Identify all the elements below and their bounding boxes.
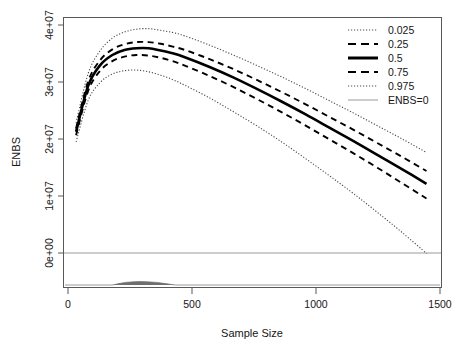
x-tick-label: 0 xyxy=(65,298,71,310)
y-tick-label: 0e+00 xyxy=(43,238,55,268)
rug-density-curve xyxy=(65,282,440,286)
y-tick-label: 2e+07 xyxy=(43,124,55,154)
quantile-curves xyxy=(76,29,426,254)
y-axis-title: ENBS xyxy=(10,137,22,167)
x-tick-label: 1500 xyxy=(428,298,452,310)
y-tick-label: 3e+07 xyxy=(43,67,55,97)
y-axis-tick-labels: 4e+07 3e+07 2e+07 1e+07 0e+00 xyxy=(43,10,55,268)
chart-canvas: 4e+07 3e+07 2e+07 1e+07 0e+00 ENBS 0 500… xyxy=(0,0,457,352)
y-axis-ticks xyxy=(58,25,63,253)
series-group xyxy=(64,29,441,285)
legend-label: 0.25 xyxy=(388,38,409,50)
legend-item-025[interactable]: 0.25 xyxy=(348,38,409,50)
legend-label: 0.025 xyxy=(388,24,414,36)
enbs-plot-svg: 4e+07 3e+07 2e+07 1e+07 0e+00 ENBS 0 500… xyxy=(0,0,457,352)
legend-item-enbs-zero[interactable]: ENBS=0 xyxy=(348,94,429,106)
x-tick-label: 500 xyxy=(183,298,201,310)
legend-item-075[interactable]: 0.75 xyxy=(348,66,409,78)
x-tick-label: 1000 xyxy=(304,298,328,310)
legend-label: ENBS=0 xyxy=(388,94,429,106)
sample-size-density-rug xyxy=(65,282,440,286)
y-tick-label: 1e+07 xyxy=(43,181,55,211)
legend-label: 0.975 xyxy=(388,80,414,92)
legend: 0.025 0.25 0.5 0.75 0.975 ENBS=0 xyxy=(348,24,429,106)
legend-item-0975[interactable]: 0.975 xyxy=(348,80,414,92)
legend-item-0025[interactable]: 0.025 xyxy=(348,24,414,36)
series-line-0975 xyxy=(76,70,426,253)
y-tick-label: 4e+07 xyxy=(43,10,55,40)
plot-frame xyxy=(64,18,442,288)
legend-label: 0.5 xyxy=(388,52,403,64)
series-line-05 xyxy=(76,48,426,184)
x-axis-tick-labels: 0 500 1000 1500 xyxy=(65,298,452,310)
x-axis-ticks xyxy=(68,288,440,294)
legend-label: 0.75 xyxy=(388,66,409,78)
x-axis-title: Sample Size xyxy=(221,327,283,339)
series-line-0025 xyxy=(76,29,426,153)
legend-item-05[interactable]: 0.5 xyxy=(348,52,403,64)
